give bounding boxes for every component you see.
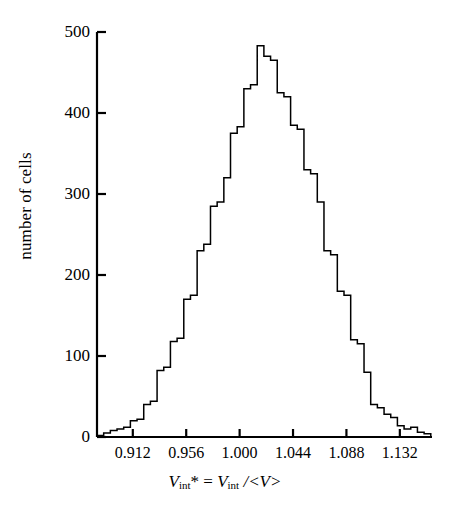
x-axis-title-v2: V bbox=[217, 472, 227, 491]
x-tick-label: 1.132 bbox=[370, 444, 430, 462]
x-axis-title: Vint* = Vint /<V> bbox=[0, 472, 450, 492]
y-tick-label: 400 bbox=[44, 104, 90, 121]
y-axis-tick-labels: 0100200300400500 bbox=[40, 0, 90, 440]
y-tick-label: 0 bbox=[44, 428, 90, 445]
x-tick-label: 0.912 bbox=[103, 444, 163, 462]
axes bbox=[97, 32, 432, 437]
y-axis-title: number of cells bbox=[16, 106, 36, 306]
x-tick-label: 1.088 bbox=[316, 444, 376, 462]
y-tick-label: 500 bbox=[44, 23, 90, 40]
x-axis-title-star: * bbox=[191, 472, 200, 491]
y-tick-label: 200 bbox=[44, 266, 90, 283]
histogram-figure: 0100200300400500 0.9120.9561.0001.0441.0… bbox=[0, 0, 450, 516]
y-tick-label: 100 bbox=[44, 347, 90, 364]
x-axis-title-sub2: int bbox=[228, 479, 240, 491]
x-axis-title-sub1: int bbox=[179, 479, 191, 491]
x-axis-title-tail: /<V> bbox=[239, 472, 281, 491]
x-tick-label: 1.044 bbox=[263, 444, 323, 462]
y-axis-ticks bbox=[97, 32, 106, 437]
x-tick-label: 1.000 bbox=[210, 444, 270, 462]
x-axis-title-equals: = bbox=[199, 472, 217, 491]
x-axis-ticks bbox=[133, 429, 400, 437]
histogram-outline bbox=[97, 46, 431, 437]
y-tick-label: 300 bbox=[44, 185, 90, 202]
x-tick-label: 0.956 bbox=[156, 444, 216, 462]
x-axis-title-v1: V bbox=[169, 472, 179, 491]
